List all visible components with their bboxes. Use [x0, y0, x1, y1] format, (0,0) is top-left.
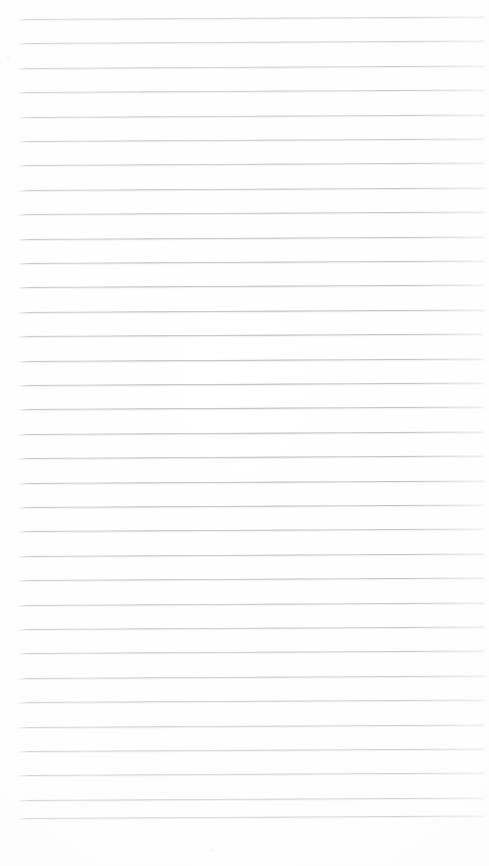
ruled-line-ink	[19, 212, 484, 215]
ruled-line-ink	[19, 431, 484, 434]
ruled-line-ink	[19, 816, 484, 819]
ruled-line	[19, 65, 484, 68]
ruled-line-ink	[19, 41, 484, 44]
ruled-lines-layer	[0, 0, 489, 866]
ruled-line-ink	[19, 407, 484, 410]
ruled-line	[19, 285, 484, 288]
ruled-line	[19, 212, 484, 215]
ruled-line	[19, 383, 484, 386]
ruled-line-ink	[19, 285, 484, 288]
ruled-line	[19, 139, 484, 142]
ruled-line	[19, 797, 484, 800]
ruled-line	[19, 90, 484, 93]
ruled-line-ink	[19, 456, 484, 459]
ruled-line-ink	[19, 334, 484, 337]
ruled-line-ink	[19, 139, 484, 142]
ruled-line	[19, 261, 484, 264]
ruled-line	[19, 163, 484, 166]
ruled-line	[19, 773, 484, 776]
ruled-line	[19, 480, 484, 483]
ruled-line	[19, 431, 484, 434]
ruled-line	[19, 749, 484, 752]
ruled-line-ink	[19, 261, 484, 264]
ruled-line	[19, 700, 484, 703]
ruled-line-ink	[19, 505, 484, 508]
ruled-line-ink	[19, 383, 484, 386]
ruled-line	[19, 41, 484, 44]
ruled-line	[19, 456, 484, 459]
ruled-line	[19, 724, 484, 727]
ruled-line	[19, 407, 484, 410]
ruled-line	[19, 627, 484, 630]
ruled-line	[19, 358, 484, 361]
ruled-line-ink	[19, 187, 484, 190]
ruled-line-ink	[19, 602, 484, 605]
ruled-line	[19, 529, 484, 532]
ruled-line-ink	[19, 553, 484, 556]
ruled-line-ink	[19, 309, 484, 312]
ruled-line-ink	[19, 358, 484, 361]
ruled-line	[19, 675, 484, 678]
ruled-line-ink	[19, 90, 484, 93]
ruled-line	[19, 236, 484, 239]
ruled-line	[19, 602, 484, 605]
ruled-line-ink	[19, 797, 484, 800]
ruled-line-ink	[19, 65, 484, 68]
ruled-line-ink	[19, 651, 484, 654]
ruled-line-ink	[19, 578, 484, 581]
ruled-line	[19, 816, 484, 819]
ruled-line	[19, 505, 484, 508]
ruled-line	[19, 17, 484, 20]
ruled-line	[19, 114, 484, 117]
ruled-line-ink	[19, 724, 484, 727]
ruled-line-ink	[19, 675, 484, 678]
ruled-line-ink	[19, 17, 484, 20]
ruled-line-ink	[19, 627, 484, 630]
ruled-line-ink	[19, 749, 484, 752]
ruled-line-ink	[19, 236, 484, 239]
ruled-line	[19, 334, 484, 337]
ruled-line	[19, 553, 484, 556]
ruled-line-ink	[19, 773, 484, 776]
ruled-line-ink	[19, 163, 484, 166]
scanned-page	[0, 0, 489, 866]
ruled-line-ink	[19, 529, 484, 532]
ruled-line-ink	[19, 700, 484, 703]
ruled-line	[19, 187, 484, 190]
ruled-line-ink	[19, 480, 484, 483]
ruled-line-ink	[19, 114, 484, 117]
ruled-line	[19, 309, 484, 312]
ruled-line	[19, 651, 484, 654]
ruled-line	[19, 578, 484, 581]
